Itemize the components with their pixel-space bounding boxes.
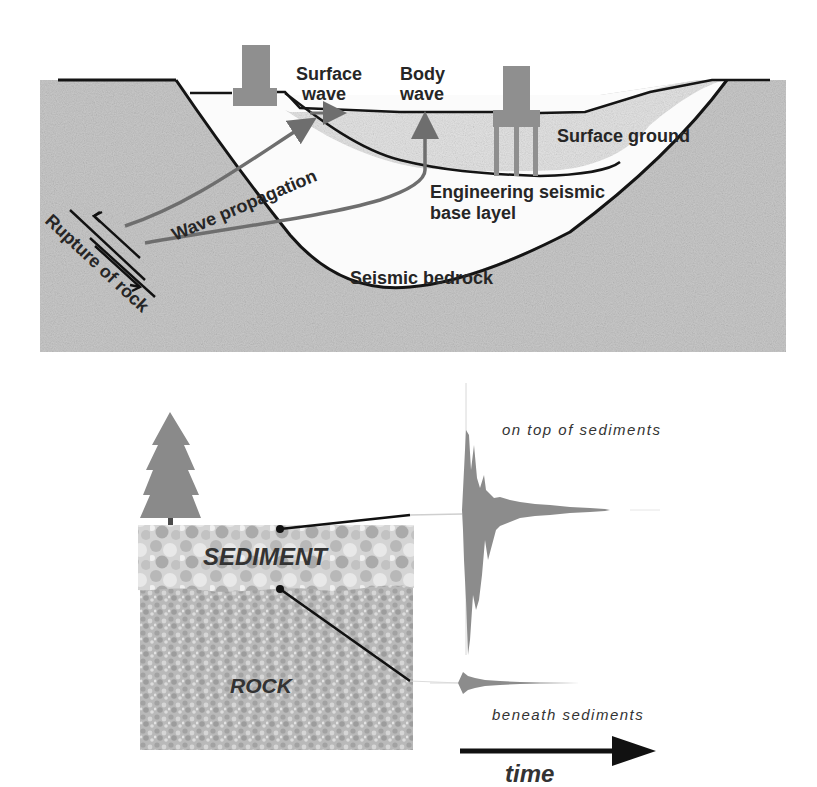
label-surface-ground: Surface ground	[557, 126, 690, 146]
time-arrow-icon	[460, 736, 656, 766]
label-on-top-of-sediments: on top of sediments	[502, 421, 661, 438]
tree-icon	[140, 412, 201, 528]
label-time: time	[505, 760, 554, 787]
rock-block	[140, 580, 413, 750]
waveform-beneath-sediments	[430, 672, 580, 694]
cross-section-panel: Surface wave Body wave Surface ground En…	[40, 45, 786, 352]
label-sediment: SEDIMENT	[203, 543, 329, 570]
label-engineering-seismic: Engineering seismic	[430, 182, 605, 202]
label-surface-wave-line2: wave	[301, 84, 346, 104]
label-body-wave-line1: Body	[400, 64, 445, 84]
label-rock: ROCK	[230, 674, 294, 697]
label-base-layer: base layel	[430, 203, 516, 223]
label-seismic-bedrock: Seismic bedrock	[350, 268, 494, 288]
seismic-diagram: Surface wave Body wave Surface ground En…	[0, 0, 817, 787]
site-amplification-panel: SEDIMENT ROCK on top of sediments beneat…	[138, 383, 661, 787]
label-body-wave-line2: wave	[399, 84, 444, 104]
label-surface-wave-line1: Surface	[296, 64, 362, 84]
label-beneath-sediments: beneath sediments	[492, 706, 644, 723]
